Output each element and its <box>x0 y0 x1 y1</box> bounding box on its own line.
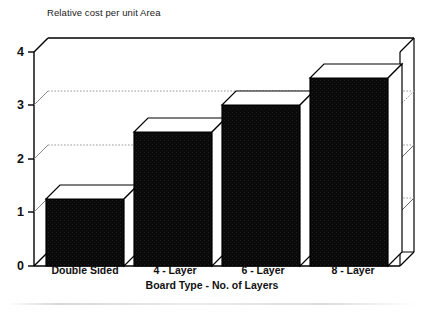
y-tick-3: 3 <box>8 98 24 112</box>
x-tick-8-layer: 8 - Layer <box>298 264 408 276</box>
bar-double-sided <box>46 185 138 266</box>
y-axis <box>28 38 48 266</box>
y-tick-0: 0 <box>8 259 24 273</box>
y-tick-4: 4 <box>8 45 24 59</box>
bar-4-layer <box>134 118 226 266</box>
y-tick-2: 2 <box>8 152 24 166</box>
page-artifact-line <box>8 303 416 305</box>
y-tick-1: 1 <box>8 205 24 219</box>
bar-6-layer <box>222 91 314 266</box>
bar-8-layer <box>310 64 402 266</box>
bar-chart: Relative cost per unit Area <box>0 0 424 312</box>
x-axis-title: Board Type - No. of Layers <box>0 279 424 291</box>
